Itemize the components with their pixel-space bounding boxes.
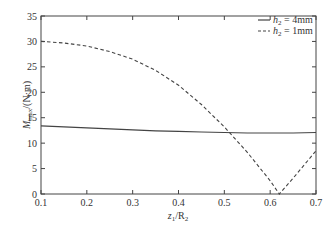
y-tick-label: 10 [27,138,37,149]
plot-area [41,16,316,194]
x-tick-label: 0.4 [172,197,185,208]
x-tick-label: 0.7 [310,197,323,208]
x-tick-label: 0.6 [264,197,277,208]
x-tick-label: 0.5 [218,197,231,208]
series-solid [41,126,316,133]
x-tick-label: 0.3 [126,197,139,208]
y-tick-label: 35 [27,11,37,22]
plot-frame [41,16,316,194]
y-tick-label: 30 [27,36,37,47]
x-axis-label: z1/R2 [167,210,189,223]
y-tick-label: 25 [27,61,37,72]
x-tick-label: 0.2 [81,197,94,208]
legend: h2 = 4mm h2 = 1mm [258,14,313,38]
series-layer [41,41,316,194]
y-tick-label: 0 [32,189,37,200]
chart: 0.10.20.30.40.50.60.7 05101520253035 h2 … [0,0,334,229]
y-axis-ticks: 05101520253035 [27,11,316,200]
series-dashed [41,41,316,194]
y-tick-label: 5 [32,163,37,174]
